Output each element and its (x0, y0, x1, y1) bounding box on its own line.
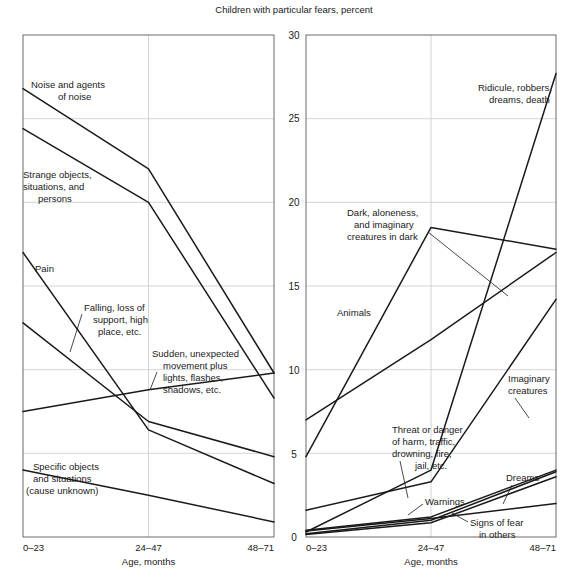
left-panel-x-axis-label: Age, months (122, 556, 176, 567)
annotation-line: Sudden, unexpected (152, 348, 239, 359)
annotation-line: drowning, fire, (392, 448, 452, 459)
annotation-line: Animals (337, 307, 371, 318)
annotation-line: of noise (58, 91, 91, 102)
annotation-line: situations, and (23, 181, 84, 192)
annotation-line: lights, flashes, (163, 372, 223, 383)
annotation-line: (cause unknown) (26, 485, 98, 496)
fears-by-age-line-chart: Children with particular fears, percent … (0, 0, 588, 580)
annotation-specific-objects: Specific objects and situations (cause u… (26, 461, 99, 496)
annotation-pain: Pain (35, 263, 54, 274)
y-tick-5: 5 (291, 449, 297, 460)
annotation-line: jail, etc. (414, 460, 447, 471)
annotation-line: Threat or danger (392, 424, 463, 435)
annotation-line: Strange objects, (23, 169, 92, 180)
annotation-line: Specific objects (33, 461, 99, 472)
annotation-line: creatures (508, 385, 548, 396)
annotation-line: in others (479, 529, 516, 540)
y-tick-0: 0 (291, 532, 297, 543)
annotation-line: Noise and agents (31, 79, 105, 90)
y-tick-30: 30 (288, 30, 300, 41)
y-tick-15: 15 (288, 281, 300, 292)
annotation-line: place, etc. (98, 326, 141, 337)
annotation-line: Warnings (425, 496, 465, 507)
annotation-animals: Animals (337, 307, 371, 318)
annotation-line: shadows, etc. (163, 384, 221, 395)
chart-figure: Children with particular fears, percent … (0, 0, 588, 580)
x-tick-0-23: 0–23 (23, 542, 44, 553)
annotation-line: creatures in dark (347, 231, 418, 242)
annotation-line: Imaginary (508, 373, 550, 384)
x-tick-24-47: 24–47 (418, 542, 444, 553)
x-tick-24-47: 24–47 (135, 542, 161, 553)
annotation-line: support, high (93, 314, 148, 325)
y-tick-25: 25 (288, 113, 300, 124)
annotation-line: Falling, loss of (84, 302, 145, 313)
y-tick-20: 20 (288, 197, 300, 208)
annotation-line: and imaginary (354, 219, 414, 230)
annotation-line: Pain (35, 263, 54, 274)
right-panel-x-axis-label: Age, months (404, 556, 458, 567)
annotation-line: Dreams (506, 472, 540, 483)
x-tick-0-23: 0–23 (306, 542, 327, 553)
y-tick-10: 10 (288, 365, 300, 376)
x-tick-48-71: 48–71 (530, 542, 556, 553)
x-tick-48-71: 48–71 (248, 542, 274, 553)
annotation-line: and situations (33, 473, 92, 484)
annotation-line: Dark, aloneness, (347, 207, 418, 218)
annotation-line: persons (38, 193, 72, 204)
annotation-line: movement plus (163, 360, 228, 371)
annotation-line: Signs of fear (470, 517, 523, 528)
chart-title: Children with particular fears, percent (215, 4, 373, 15)
annotation-ridicule-robbers-dreams-death: Ridicule, robbers, dreams, death (478, 82, 552, 105)
annotation-line: of harm, traffic, (392, 436, 455, 447)
annotation-line: Ridicule, robbers, (478, 82, 552, 93)
annotation-line: dreams, death (489, 94, 550, 105)
